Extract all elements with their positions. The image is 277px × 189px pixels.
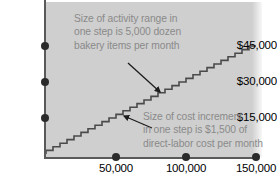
x-axis-line: [44, 157, 256, 159]
y-tick-15000: [41, 114, 49, 122]
x-tick-50000: [112, 153, 120, 161]
annotation-activity-range: Size of activity range in one step is 5,…: [74, 12, 214, 52]
x-axis-label-100000: 100,000: [146, 162, 226, 174]
y-axis-label-45000: $45,000: [236, 39, 277, 51]
y-tick-30000: [41, 78, 49, 86]
step-cost-chart: $45,000 $30,000 $15,000 50,000 100,000 1…: [0, 0, 277, 189]
y-axis-label-30000: $30,000: [236, 75, 277, 87]
x-axis-label-150000: 150,000: [216, 162, 277, 174]
x-tick-100000: [182, 153, 190, 161]
y-tick-45000: [41, 42, 49, 50]
annotation-cost-increment: Size of cost increment in one step is $1…: [143, 110, 277, 150]
activity-range-arrow: [128, 63, 160, 92]
x-tick-150000: [252, 153, 260, 161]
x-axis-label-50000: 50,000: [76, 162, 156, 174]
